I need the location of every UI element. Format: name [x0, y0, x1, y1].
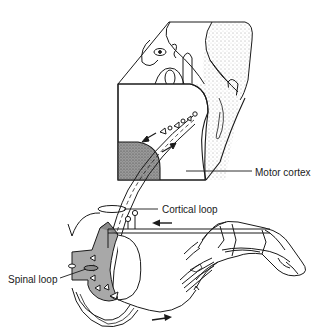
motor-cortex-block — [118, 84, 252, 180]
motor-efferent-arrow — [152, 314, 172, 321]
sensory-afferent-arrow — [152, 220, 172, 227]
cortical-loop-marker — [98, 206, 158, 213]
cortical-loop-label: Cortical loop — [162, 205, 218, 215]
spinal-cord — [60, 213, 141, 327]
finger — [180, 221, 306, 292]
spinal-loop-label: Spinal loop — [8, 275, 57, 285]
motor-loops-diagram: Motor cortex Cortical loop Spinal loop — [0, 0, 321, 334]
motor-cortex-label: Motor cortex — [255, 168, 311, 178]
